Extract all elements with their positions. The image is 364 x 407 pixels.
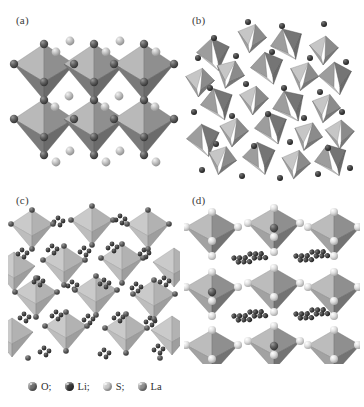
panel-c-structure <box>8 188 180 364</box>
legend-dot-s-icon <box>103 382 112 391</box>
panel-c-label: (c) <box>16 194 29 206</box>
panel-a-structure <box>8 8 180 186</box>
legend-item-o: O; <box>28 381 52 392</box>
panel-d: (d) <box>184 188 360 364</box>
panel-d-svg <box>184 188 360 364</box>
panel-a-label: (a) <box>16 14 29 26</box>
figure-canvas: (a) <box>0 0 364 407</box>
legend-label-s: S; <box>116 381 125 392</box>
legend-dot-li-icon <box>65 382 74 391</box>
panel-c-svg <box>8 188 180 364</box>
legend-item-la: La <box>138 381 162 392</box>
panel-b-svg <box>184 8 360 186</box>
panel-c: (c) <box>8 188 180 364</box>
panel-b: (b) <box>184 8 360 186</box>
panel-b-structure <box>184 8 360 186</box>
legend-item-s: S; <box>103 381 125 392</box>
panel-a-svg <box>8 8 180 186</box>
panel-a: (a) <box>8 8 180 186</box>
legend-dot-la-icon <box>138 382 147 391</box>
legend-label-la: La <box>151 381 162 392</box>
legend-label-li: Li; <box>78 381 90 392</box>
legend: O; Li; S; La <box>28 376 328 396</box>
legend-label-o: O; <box>41 381 52 392</box>
legend-item-li: Li; <box>65 381 90 392</box>
panel-b-label: (b) <box>192 14 205 26</box>
legend-dot-o-icon <box>28 382 37 391</box>
panel-d-label: (d) <box>192 194 205 206</box>
panel-d-structure <box>184 188 360 364</box>
